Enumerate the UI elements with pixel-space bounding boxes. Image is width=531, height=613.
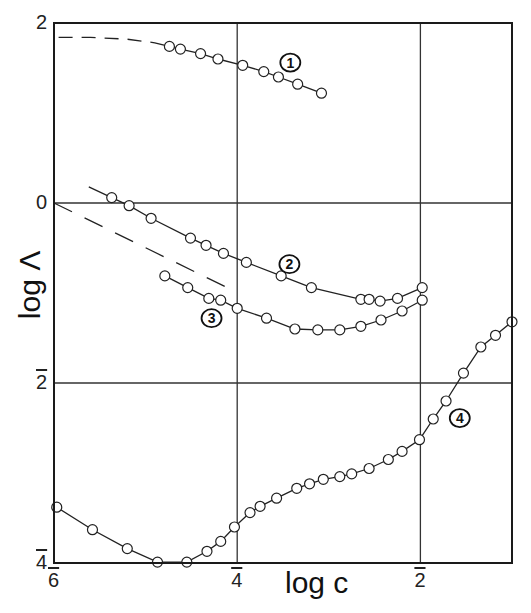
data-point-marker <box>356 321 366 331</box>
gridlines <box>54 23 512 563</box>
data-point-marker <box>393 293 403 303</box>
data-point-marker <box>185 233 195 243</box>
data-point-marker <box>491 330 501 340</box>
data-series <box>52 37 517 567</box>
data-point-marker <box>335 472 345 482</box>
data-point-marker <box>292 483 302 493</box>
data-point-marker <box>238 60 248 70</box>
chart-canvas: 1234 <box>0 0 531 613</box>
data-point-marker <box>245 508 255 518</box>
data-point-marker <box>216 536 226 546</box>
data-point-marker <box>232 303 242 313</box>
data-point-marker <box>146 213 156 223</box>
extrapolation-line <box>59 37 170 46</box>
series-2 <box>89 187 427 306</box>
data-point-marker <box>204 293 214 303</box>
data-point-marker <box>216 295 226 305</box>
x-axis-title: log c <box>285 566 348 600</box>
data-point-marker <box>441 396 451 406</box>
x-tick-label: 4 <box>231 570 242 590</box>
data-point-marker <box>262 313 272 323</box>
data-point-marker <box>318 474 328 484</box>
data-point-marker <box>397 306 407 316</box>
data-point-marker <box>202 546 212 556</box>
data-point-marker <box>306 283 316 293</box>
y-axis-title: log Λ <box>13 235 47 335</box>
data-point-marker <box>164 41 174 51</box>
y-tick-label: 2 <box>36 12 47 32</box>
series-4 <box>52 317 517 567</box>
data-point-marker <box>364 464 374 474</box>
data-point-marker <box>107 193 117 203</box>
data-point-marker <box>383 455 393 465</box>
y-tick-label: 0 <box>36 192 47 212</box>
series-label-text: 2 <box>286 256 294 272</box>
x-tick-label: 6 <box>48 570 59 590</box>
data-point-marker <box>376 315 386 325</box>
data-point-marker <box>414 435 424 445</box>
data-point-marker <box>335 325 345 335</box>
data-point-marker <box>417 283 427 293</box>
data-point-marker <box>458 368 468 378</box>
series-label-text: 4 <box>456 410 464 426</box>
series-label-text: 1 <box>286 55 294 71</box>
data-point-marker <box>201 240 211 250</box>
data-point-marker <box>316 88 326 98</box>
data-point-marker <box>183 283 193 293</box>
data-point-marker <box>375 296 385 306</box>
data-point-marker <box>417 295 427 305</box>
x-tick-label: 2 <box>414 570 425 590</box>
data-point-marker <box>293 79 303 89</box>
data-point-marker <box>259 67 269 77</box>
data-point-marker <box>273 72 283 82</box>
data-point-marker <box>241 257 251 267</box>
data-point-marker <box>196 49 206 59</box>
data-point-marker <box>364 294 374 304</box>
data-point-marker <box>313 325 323 335</box>
y-tick-label: 2 <box>36 372 47 392</box>
data-point-marker <box>305 479 315 489</box>
data-point-marker <box>397 446 407 456</box>
series-line <box>57 322 512 562</box>
data-point-marker <box>476 342 486 352</box>
data-point-marker <box>428 414 438 424</box>
data-point-marker <box>87 525 97 535</box>
plot-frame <box>54 23 512 563</box>
data-point-marker <box>218 248 228 258</box>
data-point-marker <box>175 44 185 54</box>
data-point-marker <box>229 522 239 532</box>
data-point-marker <box>290 324 300 334</box>
y-tick-label: 4 <box>36 552 47 572</box>
series-label-text: 3 <box>208 310 216 326</box>
series-labels: 1234 <box>202 54 470 428</box>
data-point-marker <box>124 201 134 211</box>
data-point-marker <box>122 544 132 554</box>
data-point-marker <box>213 54 223 64</box>
data-point-marker <box>272 493 282 503</box>
data-point-marker <box>347 469 357 479</box>
data-point-marker <box>160 271 170 281</box>
series-line <box>89 187 422 301</box>
data-point-marker <box>255 501 265 511</box>
